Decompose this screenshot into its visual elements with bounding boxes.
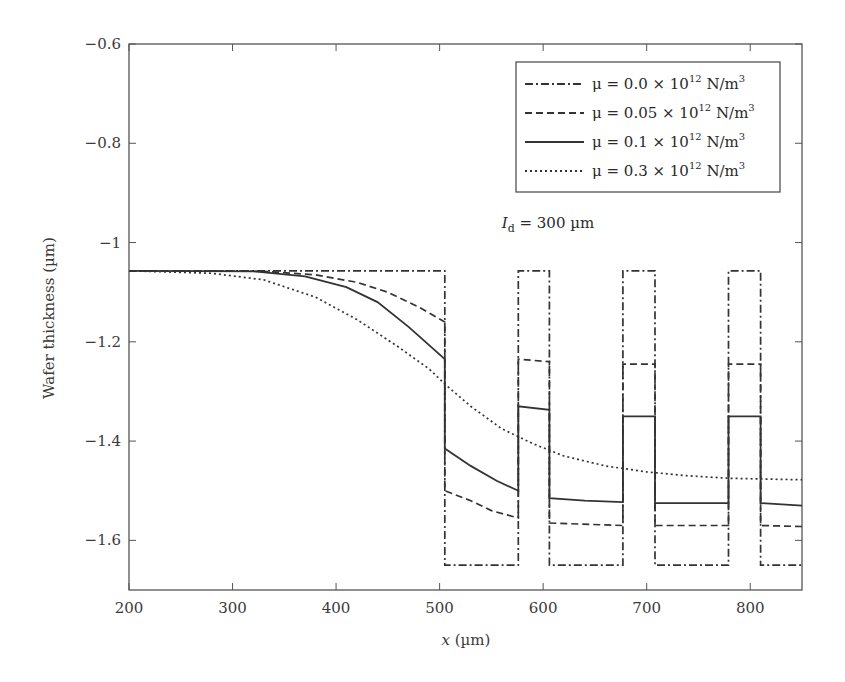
y-tick-label: −1.4: [85, 432, 121, 450]
legend: μ = 0.0 × 1012 N/m3μ = 0.05 × 1012 N/m3μ…: [516, 62, 780, 192]
legend-label-3: μ = 0.3 × 1012 N/m3: [592, 160, 745, 180]
y-axis-label: Wafer thickness (µm): [40, 237, 58, 399]
x-tick-label: 400: [322, 599, 351, 617]
series-layer: [129, 271, 802, 565]
series-line-2: [129, 271, 802, 506]
x-tick-label: 200: [115, 599, 144, 617]
series-line-3: [129, 271, 802, 480]
y-tick-label: −1: [99, 234, 121, 252]
legend-label-1: μ = 0.05 × 1012 N/m3: [592, 102, 755, 122]
x-tick-label: 300: [218, 599, 247, 617]
annotation-id: Id = 300 µm: [501, 214, 594, 235]
x-tick-label: 500: [425, 599, 454, 617]
x-axis-label: x (µm): [442, 631, 491, 649]
line-chart: 200300400500600700800 −0.6−0.8−1−1.2−1.4…: [0, 0, 845, 682]
y-tick-label: −1.6: [85, 531, 121, 549]
y-tick-label: −1.2: [85, 333, 121, 351]
x-tick-label: 800: [736, 599, 765, 617]
legend-label-0: μ = 0.0 × 1012 N/m3: [592, 73, 745, 93]
x-tick-label: 700: [632, 599, 661, 617]
x-tick-label: 600: [529, 599, 558, 617]
series-line-0: [129, 271, 802, 565]
y-tick-label: −0.6: [85, 35, 121, 53]
y-tick-label: −0.8: [85, 134, 121, 152]
legend-label-2: μ = 0.1 × 1012 N/m3: [592, 131, 745, 151]
series-line-1: [129, 271, 802, 527]
